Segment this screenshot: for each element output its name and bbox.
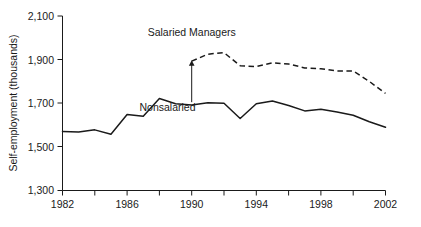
y-tick-label-1300: 1,300 — [28, 184, 54, 196]
x-tick-marks — [63, 191, 386, 196]
x-tick-label-1998: 1998 — [309, 198, 333, 210]
x-tick-label-1994: 1994 — [245, 198, 269, 210]
x-tick-label-2002: 2002 — [374, 198, 398, 210]
x-tick-label-1986: 1986 — [115, 198, 139, 210]
y-tick-label-1900: 1,900 — [28, 54, 54, 66]
y-tick-marks — [58, 16, 63, 191]
series-line-nonsalaried — [63, 98, 386, 134]
series-label-salaried-managers: Salaried Managers — [148, 26, 236, 38]
y-tick-label-1500: 1,500 — [28, 141, 54, 153]
series-line-salaried-managers — [192, 53, 386, 94]
y-tick-label-1700: 1,700 — [28, 97, 54, 109]
x-tick-label-1982: 1982 — [51, 198, 75, 210]
annotation-arrow — [189, 60, 195, 102]
y-tick-label-2100: 2,100 — [28, 10, 54, 22]
self-employment-line-chart: Self-employment (thousands) 2,100 1,900 … — [0, 0, 421, 227]
chart-container: Self-employment (thousands) 2,100 1,900 … — [0, 0, 421, 227]
y-axis-title: Self-employment (thousands) — [7, 34, 19, 171]
x-tick-label-1990: 1990 — [180, 198, 204, 210]
series-label-nonsalaried: Nonsalaried — [139, 101, 195, 113]
